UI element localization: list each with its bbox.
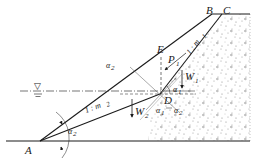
- svg-text:1: 1: [176, 60, 180, 68]
- soil-region: [148, 14, 250, 141]
- svg-text:2: 2: [179, 109, 183, 117]
- slope-label-m2: 1 : m 2: [83, 97, 111, 117]
- svg-text:W: W: [185, 70, 195, 82]
- svg-text:2: 2: [73, 130, 77, 138]
- label-point-B: B: [206, 4, 213, 16]
- svg-text:1 : m: 1 : m: [83, 100, 102, 114]
- svg-text:2: 2: [145, 112, 149, 120]
- label-point-E: E: [156, 43, 164, 55]
- svg-text:W: W: [135, 105, 145, 117]
- water-level-symbol: ▽: [34, 81, 42, 97]
- svg-text:2: 2: [111, 64, 115, 72]
- svg-text:P: P: [167, 53, 175, 65]
- angle-alpha2-left: α 2: [106, 61, 115, 72]
- svg-text:1: 1: [161, 109, 165, 117]
- svg-text:1: 1: [178, 88, 182, 96]
- label-point-C: C: [223, 4, 231, 16]
- angle-alpha2-A: α 2: [56, 112, 77, 158]
- svg-text:1: 1: [195, 77, 199, 85]
- svg-text:▽: ▽: [34, 81, 41, 91]
- label-point-D: D: [163, 94, 172, 106]
- label-point-A: A: [24, 144, 32, 156]
- svg-text:2: 2: [105, 100, 112, 109]
- slope-stability-diagram: ▽ P 1 W 1 W 2 A B C D E 1 : m 1: [0, 0, 262, 162]
